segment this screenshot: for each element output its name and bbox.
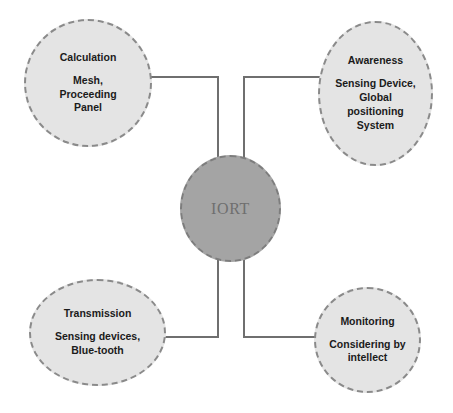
node-awareness-description: Sensing Device, Global positioning Syste… — [332, 77, 420, 132]
node-transmission[interactable]: Transmission Sensing devices, Blue-tooth — [29, 279, 166, 386]
connector-calculation-to-center-vertical — [217, 76, 219, 162]
connector-awareness-to-center — [243, 76, 323, 78]
node-monitoring-description: Considering by intellect — [322, 338, 414, 366]
connector-monitoring-to-center — [243, 336, 318, 338]
node-calculation-title: Calculation — [60, 51, 117, 65]
node-awareness[interactable]: Awareness Sensing Device, Global positio… — [318, 21, 433, 166]
connector-awareness-to-center-vertical — [243, 76, 245, 162]
node-calculation[interactable]: Calculation Mesh, Proceeding Panel — [24, 19, 152, 147]
connector-transmission-to-center-vertical — [217, 256, 219, 338]
node-awareness-title: Awareness — [348, 54, 403, 68]
node-monitoring[interactable]: Monitoring Considering by intellect — [314, 287, 421, 393]
connector-transmission-to-center — [159, 336, 219, 338]
connector-monitoring-to-center-vertical — [243, 256, 245, 338]
node-transmission-description: Sensing devices, Blue-tooth — [52, 330, 144, 358]
iort-diagram: Calculation Mesh, Proceeding Panel Aware… — [0, 0, 453, 413]
connector-calculation-to-center — [150, 76, 219, 78]
node-center-iort[interactable]: IORT — [180, 155, 281, 262]
node-transmission-title: Transmission — [64, 307, 132, 321]
node-monitoring-title: Monitoring — [340, 315, 394, 329]
node-center-label: IORT — [211, 200, 250, 218]
node-calculation-description: Mesh, Proceeding Panel — [47, 74, 129, 116]
